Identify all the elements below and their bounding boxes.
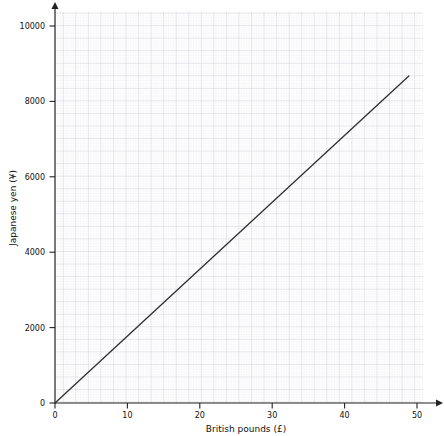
y-axis-title: Japanese yen (¥): [8, 170, 18, 247]
conversion-graph: 0 2000 4000 6000 8000 10000 0 10 20 30 4…: [0, 0, 444, 436]
x-tick-label: 30: [267, 411, 277, 420]
y-tick-label: 2000: [25, 324, 45, 333]
x-tick-label: 50: [412, 411, 422, 420]
x-axis-tick-labels: 0 10 20 30 40 50: [52, 411, 422, 420]
y-tick-label: 4000: [25, 248, 45, 257]
chart-canvas: 0 2000 4000 6000 8000 10000 0 10 20 30 4…: [0, 0, 444, 436]
y-tick-label: 10000: [20, 22, 45, 31]
x-axis-ticks: [55, 403, 417, 409]
x-axis-title: British pounds (£): [206, 424, 286, 434]
x-tick-label: 10: [122, 411, 132, 420]
y-tick-label: 0: [40, 399, 45, 408]
plot-grid: [55, 12, 423, 403]
y-tick-label: 6000: [25, 173, 45, 182]
x-tick-label: 0: [52, 411, 57, 420]
x-tick-label: 40: [340, 411, 350, 420]
y-axis-ticks: [50, 26, 56, 403]
y-axis-tick-labels: 0 2000 4000 6000 8000 10000: [20, 22, 45, 408]
x-tick-label: 20: [195, 411, 205, 420]
y-tick-label: 8000: [25, 97, 45, 106]
